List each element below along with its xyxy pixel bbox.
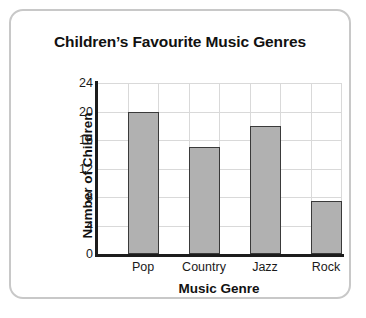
x-axis-label: Music Genre: [97, 281, 341, 296]
bar-pop: [128, 112, 159, 255]
y-tick-20: 20: [59, 105, 93, 119]
x-axis-line: [95, 254, 344, 257]
x-tick-country: Country: [182, 260, 226, 274]
y-axis-line: [95, 81, 98, 256]
bar-jazz: [250, 126, 281, 254]
bar-country: [189, 147, 220, 254]
chart-title: Children’s Favourite Music Genres: [11, 33, 349, 51]
y-tick-24: 24: [59, 76, 93, 90]
x-tick-pop: Pop: [132, 260, 154, 274]
y-tick-0: 0: [59, 247, 93, 261]
chart-card: Children’s Favourite Music Genres Number…: [9, 9, 351, 299]
y-tick-8: 8: [59, 190, 93, 204]
x-tick-rock: Rock: [312, 260, 340, 274]
x-tick-jazz: Jazz: [252, 260, 278, 274]
y-tick-12: 12: [59, 162, 93, 176]
bar-rock: [311, 201, 342, 254]
x-axis-tick-labels: PopCountryJazzRock: [97, 260, 341, 278]
y-tick-4: 4: [59, 219, 93, 233]
plot-area: [97, 83, 341, 254]
y-axis-tick-labels: 04812162024: [57, 83, 93, 254]
y-tick-16: 16: [59, 133, 93, 147]
plot-area-container: [97, 83, 341, 254]
